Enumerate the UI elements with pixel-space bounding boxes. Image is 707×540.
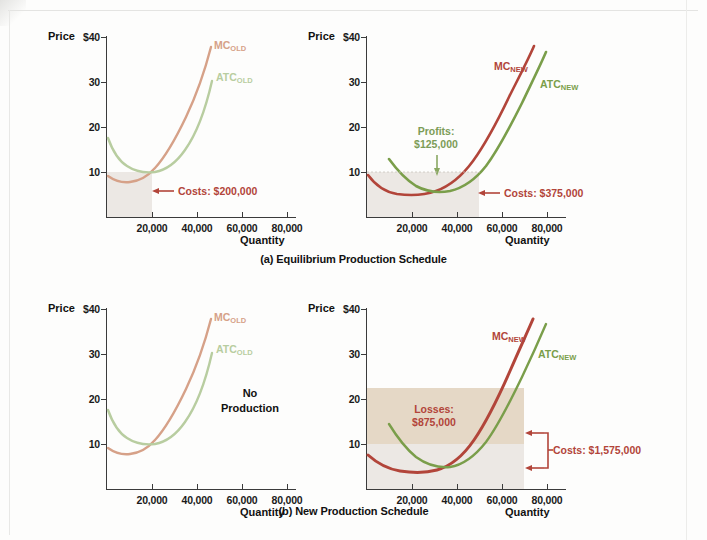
profits-line1: Profits: — [418, 125, 455, 137]
y-label-20: 20 — [58, 121, 100, 133]
mc-old-sub: OLD — [230, 316, 246, 325]
atc-new-text: ATC — [538, 348, 559, 360]
no-production-line2: Production — [221, 402, 279, 414]
x-label-80000: 80,000 — [522, 222, 572, 234]
curve-label-mc-old: MCOLD — [214, 39, 246, 51]
x-tick-40000 — [457, 212, 458, 217]
costs-region-a-right — [367, 172, 479, 217]
curve-label-mc-new: MCNEW — [494, 60, 528, 72]
y-tick-20 — [101, 399, 106, 400]
y-axis — [366, 308, 367, 490]
quantity-axis-title: Quantity — [240, 234, 285, 246]
y-label-30: 30 — [58, 76, 100, 88]
x-label-40000: 40,000 — [432, 222, 482, 234]
costs-label-a-right: Costs: $375,000 — [504, 187, 583, 200]
profits-line2: $125,000 — [414, 138, 458, 150]
panel-a-right: Price $40 30 20 10 20,000 40,000 60,000 … — [300, 0, 707, 250]
curve-label-mc-new: MCNEW — [492, 330, 526, 342]
panel-b-right: Price $40 30 20 10 20,000 40,000 60,000 … — [300, 278, 707, 528]
panel-b-left: Price $40 30 20 10 20,000 40,000 60,000 … — [0, 278, 300, 528]
profits-label-a-right: Profits: $125,000 — [405, 125, 467, 151]
y-label-10: 10 — [318, 438, 360, 450]
x-tick-20000 — [152, 484, 153, 489]
atc-old-text: ATC — [216, 71, 237, 83]
y-tick-40 — [101, 37, 106, 38]
atc-new-sub: NEW — [559, 353, 577, 362]
x-tick-60000 — [502, 212, 503, 217]
y-label-40: $40 — [58, 303, 100, 315]
y-label-40: $40 — [58, 31, 100, 43]
y-label-10: 10 — [58, 166, 100, 178]
mc-old-text: MC — [214, 39, 230, 51]
y-label-40: $40 — [318, 31, 360, 43]
y-label-30: 30 — [318, 76, 360, 88]
y-label-20: 20 — [318, 121, 360, 133]
no-production-line1: No — [243, 387, 258, 399]
losses-line1: Losses: — [414, 403, 454, 415]
x-label-40000: 40,000 — [172, 222, 222, 234]
caption-b: (b) New Production Schedule — [0, 505, 707, 517]
curve-label-atc-old: ATCOLD — [216, 71, 253, 83]
mc-new-sub: NEW — [508, 335, 526, 344]
x-tick-40000 — [197, 212, 198, 217]
x-tick-80000 — [547, 484, 548, 489]
curve-label-atc-new: ATCNEW — [540, 78, 578, 90]
x-tick-20000 — [412, 484, 413, 489]
x-axis — [106, 217, 296, 218]
mc-old-text: MC — [214, 311, 230, 323]
atc-old-sub: OLD — [237, 348, 253, 357]
x-axis — [366, 489, 566, 490]
losses-label-b-right: Losses: $875,000 — [403, 403, 465, 429]
y-label-20: 20 — [318, 393, 360, 405]
y-tick-30 — [361, 82, 366, 83]
atc-old-text: ATC — [216, 343, 237, 355]
atc-new-sub: NEW — [561, 83, 579, 92]
y-tick-10 — [101, 172, 106, 173]
x-label-20000: 20,000 — [387, 222, 437, 234]
no-production-label: No Production — [205, 386, 295, 416]
curve-label-atc-old: ATCOLD — [216, 343, 253, 355]
y-axis — [106, 36, 107, 218]
x-tick-40000 — [197, 484, 198, 489]
y-tick-30 — [101, 82, 106, 83]
mc-new-text: MC — [492, 330, 508, 342]
quantity-axis-title: Quantity — [505, 234, 550, 246]
costs-region-b-right — [367, 444, 524, 489]
y-tick-30 — [361, 354, 366, 355]
mc-new-text: MC — [494, 60, 510, 72]
y-axis — [366, 36, 367, 218]
x-tick-20000 — [152, 212, 153, 217]
y-tick-10 — [101, 444, 106, 445]
y-tick-40 — [101, 309, 106, 310]
y-tick-20 — [101, 127, 106, 128]
y-label-10: 10 — [58, 438, 100, 450]
x-label-60000: 60,000 — [217, 222, 267, 234]
y-label-40: $40 — [318, 303, 360, 315]
y-tick-20 — [361, 399, 366, 400]
costs-label-a-left: Costs: $200,000 — [178, 185, 257, 198]
y-tick-10 — [361, 172, 366, 173]
x-tick-40000 — [457, 484, 458, 489]
curve-label-mc-old: MCOLD — [214, 311, 246, 323]
x-axis — [106, 489, 296, 490]
y-tick-10 — [361, 444, 366, 445]
losses-line2: $875,000 — [412, 416, 456, 428]
atc-old-sub: OLD — [237, 76, 253, 85]
y-label-20: 20 — [58, 393, 100, 405]
x-label-60000: 60,000 — [477, 222, 527, 234]
caption-a: (a) Equilibrium Production Schedule — [0, 253, 707, 265]
curve-label-atc-new: ATCNEW — [538, 348, 576, 360]
x-tick-80000 — [287, 212, 288, 217]
y-tick-20 — [361, 127, 366, 128]
figure-page: Price $40 30 20 10 20,000 40,000 60,000 … — [0, 0, 707, 540]
x-tick-60000 — [502, 484, 503, 489]
panel-a-left: Price $40 30 20 10 20,000 40,000 60,000 … — [0, 0, 300, 250]
mc-new-sub: NEW — [510, 65, 528, 74]
x-tick-20000 — [412, 212, 413, 217]
x-label-20000: 20,000 — [127, 222, 177, 234]
costs-label-b-right: Costs: $1,575,000 — [553, 444, 641, 457]
mc-old-sub: OLD — [230, 44, 246, 53]
costs-region-a-left — [107, 172, 152, 217]
x-axis — [366, 217, 566, 218]
y-tick-40 — [361, 37, 366, 38]
